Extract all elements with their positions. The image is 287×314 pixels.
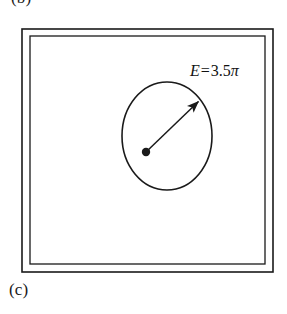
ellipse-center-dot: [142, 148, 150, 156]
radius-arrow: [146, 102, 199, 153]
annotation-value: 3.5: [211, 62, 231, 79]
figure-drawing-canvas: [0, 0, 287, 314]
panel-label-c: (c): [9, 281, 28, 298]
panel-label-b: (b): [11, 0, 31, 6]
annotation-pi-symbol: π: [231, 62, 239, 79]
annotation-operator: =: [200, 62, 211, 79]
energy-annotation-label: E=3.5π: [190, 63, 239, 79]
annotation-variable: E: [190, 62, 200, 79]
figure-panel-c: E=3.5π (b) (c): [0, 0, 287, 314]
region-ellipse: [122, 82, 212, 190]
